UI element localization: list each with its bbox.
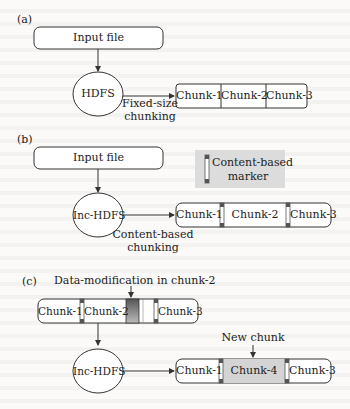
chunk-b-3: Chunk-3 bbox=[290, 209, 331, 221]
chunk-c-after-1: Chunk-1 bbox=[176, 365, 219, 377]
chunk-a-1: Chunk-1 bbox=[176, 90, 221, 102]
edge-label-b-1: Content-based bbox=[108, 229, 198, 241]
chunk-c-after-3: Chunk-3 bbox=[289, 365, 331, 377]
input-file-label-b: Input file bbox=[34, 152, 163, 164]
hdfs-label-a: HDFS bbox=[73, 88, 123, 100]
legend-text-1: Content-based bbox=[212, 157, 284, 169]
chunk-a-2: Chunk-2 bbox=[221, 90, 266, 102]
panel-a-label: (a) bbox=[17, 14, 32, 26]
diagram-canvas bbox=[0, 0, 350, 409]
inc-hdfs-label-b: Inc-HDFS bbox=[73, 209, 123, 221]
legend-text-2: marker bbox=[212, 171, 284, 183]
chunk-c-after-4: Chunk-4 bbox=[223, 365, 285, 377]
chunk-b-2: Chunk-2 bbox=[224, 209, 286, 221]
edge-label-a-1: Fixed-size bbox=[122, 98, 178, 110]
chunk-a-3: Chunk-3 bbox=[266, 90, 307, 102]
chunk-c-before-3: Chunk-3 bbox=[158, 305, 198, 317]
chunk-b-1: Chunk-1 bbox=[176, 209, 220, 221]
new-chunk-annotation: New chunk bbox=[220, 332, 286, 344]
modification-annotation: Data-modification in chunk-2 bbox=[54, 275, 216, 287]
panel-b-label: (b) bbox=[17, 134, 33, 146]
legend-marker-icon bbox=[205, 155, 209, 183]
input-file-label-a: Input file bbox=[34, 32, 163, 44]
edge-label-b-2: chunking bbox=[108, 242, 198, 254]
panel-c-label: (c) bbox=[22, 276, 37, 288]
chunk-c-before-2: Chunk-2 bbox=[84, 305, 126, 317]
chunk-c-before-1: Chunk-1 bbox=[38, 305, 80, 317]
inc-hdfs-label-c: Inc-HDFS bbox=[73, 365, 123, 377]
edge-label-a-2: chunking bbox=[122, 111, 178, 123]
